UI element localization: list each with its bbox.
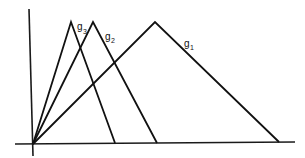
diagram-canvas: g 3 g 2 g 1 <box>0 0 305 158</box>
label-g1-subscript: 1 <box>190 44 194 51</box>
label-g2: g 2 <box>105 31 115 44</box>
y-axis <box>29 9 33 156</box>
label-g2-main: g <box>105 31 111 42</box>
triangle-g1 <box>33 22 279 144</box>
label-g1-main: g <box>184 38 190 49</box>
label-g2-subscript: 2 <box>111 37 115 44</box>
x-axis <box>15 142 295 144</box>
label-g3-main: g <box>77 21 83 32</box>
label-g3-subscript: 3 <box>83 28 87 35</box>
label-g3: g 3 <box>77 21 87 35</box>
label-g1: g 1 <box>184 38 194 51</box>
